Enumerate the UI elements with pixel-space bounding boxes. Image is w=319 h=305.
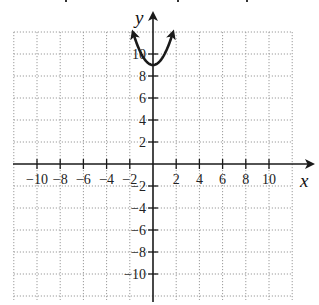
y-tick-label: 8 [139, 69, 146, 84]
y-tick-label: 4 [139, 113, 146, 128]
x-tick-label: 4 [196, 172, 203, 187]
y-tick-label: −2 [131, 179, 146, 194]
y-tick-label: −10 [124, 267, 146, 282]
y-tick-label: −8 [131, 245, 146, 260]
x-tick-label: 10 [262, 172, 276, 187]
y-tick-label: 2 [139, 135, 146, 150]
y-axis-label: y [133, 7, 144, 28]
x-tick-label: 8 [242, 172, 249, 187]
x-tick-label: −6 [76, 172, 91, 187]
y-tick-label: −4 [131, 201, 146, 216]
cropped-text-fragments [65, 0, 248, 2]
x-tick-label: −10 [26, 172, 48, 187]
x-axis-label: x [299, 170, 309, 191]
x-tick-label: 2 [173, 172, 180, 187]
x-tick-label: −4 [99, 172, 114, 187]
x-tick-label: 6 [219, 172, 226, 187]
x-tick-label: −8 [53, 172, 68, 187]
coordinate-plane: −10−8−6−4−2246810108642−2−4−6−8−10 x y [0, 0, 319, 305]
y-tick-label: 6 [139, 91, 146, 106]
y-tick-label: −6 [131, 223, 146, 238]
